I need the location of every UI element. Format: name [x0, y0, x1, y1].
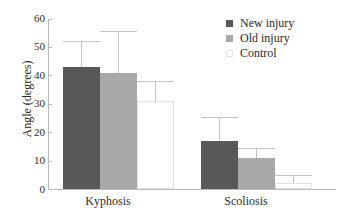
error-bar-cap-scoliosis-new [201, 117, 238, 118]
legend: New injury Old injury Control [226, 16, 334, 61]
error-bar-cap-scoliosis-control [275, 175, 312, 176]
y-tick-40 [48, 75, 52, 76]
bar-kyphosis-new-injury [63, 67, 100, 189]
y-tick-10 [48, 161, 52, 162]
y-tick-50 [48, 47, 52, 48]
legend-swatch-icon-new-injury [226, 20, 233, 27]
y-axis-tick-labels: 60 50 40 30 20 10 0 [15, 0, 45, 221]
legend-label-control: Control [240, 47, 277, 60]
bar-kyphosis-control [137, 101, 174, 189]
x-group-label-kyphosis: Kyphosis [63, 194, 153, 208]
bar-chart: Angle (degrees) 60 50 40 30 20 10 0 Kyph… [0, 0, 341, 221]
y-tick-label-20: 20 [19, 127, 45, 138]
legend-item-new-injury: New injury [226, 16, 334, 30]
legend-swatch-icon-control [226, 50, 233, 57]
y-tick-label-30: 30 [19, 98, 45, 109]
legend-swatch-icon-old-injury [226, 35, 233, 42]
bar-scoliosis-new-injury [201, 141, 238, 189]
y-tick-label-0: 0 [19, 184, 45, 195]
bar-kyphosis-old-injury [100, 73, 137, 189]
y-tick-label-50: 50 [19, 41, 45, 52]
y-tick-60 [48, 19, 52, 20]
error-bar-cap-scoliosis-old [238, 148, 275, 149]
y-tick-30 [48, 104, 52, 105]
legend-label-old-injury: Old injury [240, 32, 290, 45]
y-tick-label-40: 40 [19, 70, 45, 81]
x-axis-line [48, 189, 336, 190]
error-bar-cap-kyphosis-old [100, 31, 137, 32]
bar-scoliosis-control [275, 183, 312, 189]
bar-scoliosis-old-injury [238, 158, 275, 189]
legend-item-old-injury: Old injury [226, 31, 334, 45]
y-tick-label-60: 60 [19, 13, 45, 24]
y-tick-label-10: 10 [19, 155, 45, 166]
error-bar-stem-scoliosis-old [256, 148, 257, 158]
y-tick-20 [48, 132, 52, 133]
legend-item-control: Control [226, 46, 334, 60]
legend-label-new-injury: New injury [240, 17, 294, 30]
x-group-label-scoliosis: Scoliosis [201, 194, 291, 208]
error-bar-cap-kyphosis-control [137, 81, 174, 82]
error-bar-cap-kyphosis-new [63, 41, 100, 42]
